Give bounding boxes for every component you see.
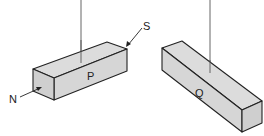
diagram-canvas: P N S Q bbox=[0, 0, 264, 136]
south-arrow-line bbox=[128, 28, 142, 45]
south-label: S bbox=[143, 20, 150, 32]
block-q: Q bbox=[162, 0, 262, 132]
block-q-label: Q bbox=[195, 87, 204, 99]
block-p-label: P bbox=[87, 70, 94, 82]
block-p: P N S bbox=[9, 0, 150, 105]
north-label: N bbox=[9, 93, 17, 105]
